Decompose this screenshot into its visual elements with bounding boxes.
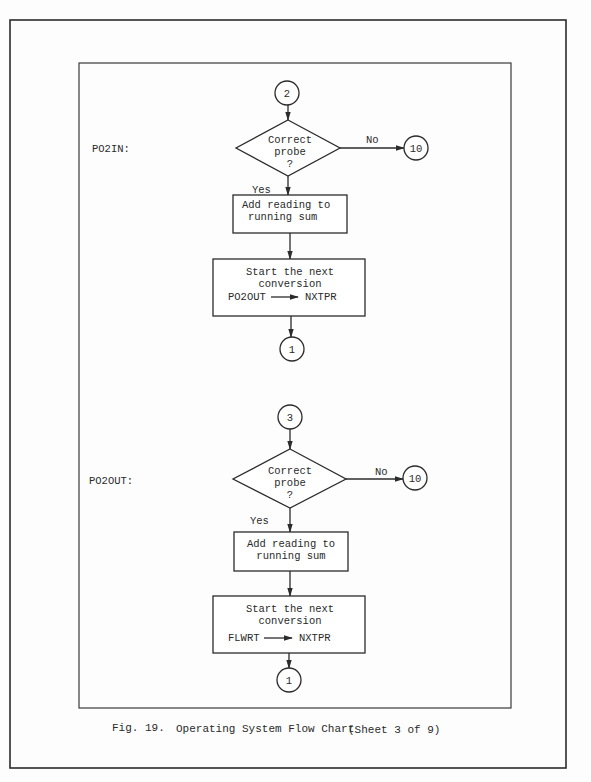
section-po2out: PO2OUT: 3 Correct probe ? No 10 Yes Add …	[89, 405, 427, 692]
svg-text:Add reading to: Add reading to	[247, 538, 335, 550]
decision-correct-probe: Correct probe ?	[233, 449, 346, 508]
svg-text:FLWRT: FLWRT	[228, 632, 260, 644]
svg-text:conversion: conversion	[258, 615, 321, 627]
yes-label: Yes	[252, 184, 271, 196]
svg-text:10: 10	[410, 143, 423, 155]
svg-text:probe: probe	[274, 477, 306, 489]
decision-correct-probe: Correct probe ?	[236, 120, 340, 176]
svg-text:?: ?	[287, 158, 293, 170]
svg-text:Start the next: Start the next	[246, 603, 334, 615]
svg-text:3: 3	[287, 412, 293, 424]
section-label: PO2IN:	[92, 143, 130, 155]
svg-text:PO2OUT: PO2OUT	[228, 291, 266, 303]
svg-text:NXTPR: NXTPR	[305, 291, 337, 303]
exit-connector-1: 1	[277, 668, 301, 692]
entry-connector-3: 3	[278, 405, 302, 429]
entry-connector-2: 2	[275, 81, 299, 105]
svg-text:Start the next: Start the next	[246, 266, 334, 278]
section-label: PO2OUT:	[89, 475, 133, 487]
section-po2in: PO2IN: 2 Correct probe ? No 10 Yes Add r…	[92, 81, 428, 361]
no-label: No	[366, 134, 379, 146]
process-add-reading: Add reading to running sum	[233, 195, 347, 233]
svg-text:10: 10	[409, 473, 422, 485]
connector-10: 10	[404, 136, 428, 160]
svg-text:running sum: running sum	[248, 211, 317, 223]
process-add-reading: Add reading to running sum	[234, 532, 348, 571]
svg-text:Add reading to: Add reading to	[242, 199, 330, 211]
yes-label: Yes	[250, 515, 269, 527]
svg-text:Fig. 19.: Fig. 19.	[112, 722, 165, 734]
process-start-conversion: Start the next conversion PO2OUT NXTPR	[213, 259, 365, 316]
flowchart-canvas: PO2IN: 2 Correct probe ? No 10 Yes Add r…	[0, 0, 591, 782]
svg-text:2: 2	[284, 88, 290, 100]
svg-text:probe: probe	[274, 146, 306, 158]
no-label: No	[375, 466, 388, 478]
exit-connector-1: 1	[280, 337, 304, 361]
svg-text:Correct: Correct	[268, 465, 312, 477]
process-start-conversion: Start the next conversion FLWRT NXTPR	[213, 596, 365, 653]
svg-text:conversion: conversion	[258, 278, 321, 290]
svg-text:Correct: Correct	[268, 134, 312, 146]
svg-text:running sum: running sum	[256, 550, 325, 562]
svg-text:(Sheet 3 of 9): (Sheet 3 of 9)	[348, 724, 440, 736]
svg-text:?: ?	[287, 489, 293, 501]
svg-text:1: 1	[289, 344, 295, 356]
svg-text:NXTPR: NXTPR	[299, 632, 331, 644]
figure-caption: Fig. 19. Operating System Flow Chart (Sh…	[112, 722, 440, 736]
connector-10: 10	[403, 466, 427, 490]
svg-text:1: 1	[286, 675, 292, 687]
document-page: PO2IN: 2 Correct probe ? No 10 Yes Add r…	[0, 0, 591, 782]
svg-text:Operating System Flow Chart: Operating System Flow Chart	[176, 723, 354, 735]
